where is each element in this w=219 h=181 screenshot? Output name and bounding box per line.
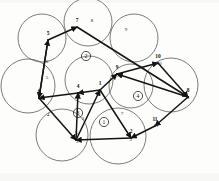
node-11: 11 <box>152 116 157 122</box>
face-1-label: 1 <box>103 119 106 125</box>
node-3: 3 <box>75 130 78 136</box>
node-2: 2 <box>130 128 133 134</box>
figure-root: 1234 6789108112314649735 1234567891011 <box>0 0 219 181</box>
node-7: 7 <box>76 17 79 23</box>
node-4: 4 <box>77 83 80 89</box>
edge-8-11-label: 11 <box>154 123 159 128</box>
node-6: 6 <box>38 88 41 94</box>
face-3-label: 3 <box>77 110 80 116</box>
node-1: 1 <box>99 80 102 86</box>
node-5: 5 <box>47 30 50 36</box>
edge-9-10-label: 10 <box>157 61 163 66</box>
circle-coverage-diagram: 1234 6789108112314649735 1234567891011 <box>0 0 219 181</box>
node-8: 8 <box>187 87 190 93</box>
node-10: 10 <box>155 53 161 59</box>
face-4-label: 4 <box>137 93 140 99</box>
node-9: 9 <box>116 64 119 70</box>
face-2-label: 2 <box>85 53 88 59</box>
